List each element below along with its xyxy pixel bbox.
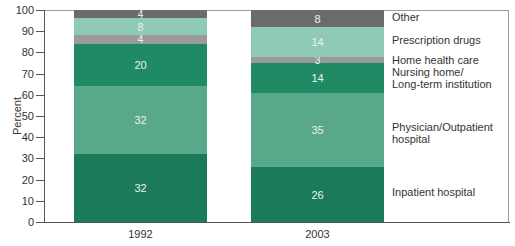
bar-1992: 32 32 20 4 8 4 <box>74 10 207 222</box>
legend-nursing-line1: Nursing home/ <box>392 66 492 78</box>
y-axis-label: Percent <box>11 91 23 141</box>
segment-nursing: 20 <box>74 44 207 86</box>
value-label: 14 <box>311 36 323 48</box>
segment-prescription: 8 <box>74 18 207 35</box>
bar-2003: 26 35 14 3 14 8 <box>251 10 384 222</box>
y-tick <box>36 52 44 53</box>
y-tick <box>36 116 44 117</box>
y-tick-label: 20 <box>10 174 34 186</box>
value-label: 35 <box>311 124 323 136</box>
y-tick-label: 90 <box>10 25 34 37</box>
legend-nursing-line2: Long-term institution <box>392 78 492 90</box>
legend-physician-line2: hospital <box>392 133 493 145</box>
segment-inpatient: 26 <box>251 167 384 222</box>
y-tick <box>36 158 44 159</box>
y-tick <box>36 74 44 75</box>
y-axis <box>44 10 45 223</box>
x-category-2003: 2003 <box>251 228 384 240</box>
segment-physician: 32 <box>74 86 207 154</box>
y-tick-label: 0 <box>10 216 34 228</box>
y-tick-label: 10 <box>10 195 34 207</box>
y-tick-label: 80 <box>10 46 34 58</box>
x-category-1992: 1992 <box>74 228 207 240</box>
value-label: 32 <box>134 182 146 194</box>
segment-inpatient: 32 <box>74 154 207 222</box>
segment-home-health: 3 <box>251 57 384 63</box>
value-label: 26 <box>311 189 323 201</box>
segment-other: 8 <box>251 10 384 27</box>
value-label: 4 <box>138 9 144 20</box>
value-label: 14 <box>311 72 323 84</box>
legend-prescription-drugs: Prescription drugs <box>392 34 481 46</box>
value-label: 4 <box>138 34 144 45</box>
segment-nursing: 14 <box>251 63 384 93</box>
legend-physician-outpatient: Physician/Outpatient hospital <box>392 121 493 145</box>
legend-other: Other <box>392 11 420 23</box>
y-tick-label: 70 <box>10 68 34 80</box>
y-tick <box>36 31 44 32</box>
segment-home-health: 4 <box>74 35 207 44</box>
y-tick <box>36 201 44 202</box>
value-label: 8 <box>314 13 320 25</box>
y-tick-label: 100 <box>10 4 34 16</box>
value-label: 32 <box>134 114 146 126</box>
segment-other: 4 <box>74 10 207 18</box>
segment-physician: 35 <box>251 93 384 167</box>
value-label: 8 <box>137 21 143 33</box>
y-tick <box>36 137 44 138</box>
y-tick <box>36 10 44 11</box>
legend-home-health-care: Home health care <box>392 54 479 66</box>
y-tick <box>36 222 44 223</box>
y-tick <box>36 180 44 181</box>
legend-physician-line1: Physician/Outpatient <box>392 121 493 133</box>
value-label: 20 <box>134 59 146 71</box>
x-axis <box>44 222 510 223</box>
y-tick-label: 30 <box>10 152 34 164</box>
legend-inpatient-hospital: Inpatient hospital <box>392 186 475 198</box>
legend-nursing-home: Nursing home/ Long-term institution <box>392 66 492 90</box>
y-tick <box>36 95 44 96</box>
segment-prescription: 14 <box>251 27 384 57</box>
